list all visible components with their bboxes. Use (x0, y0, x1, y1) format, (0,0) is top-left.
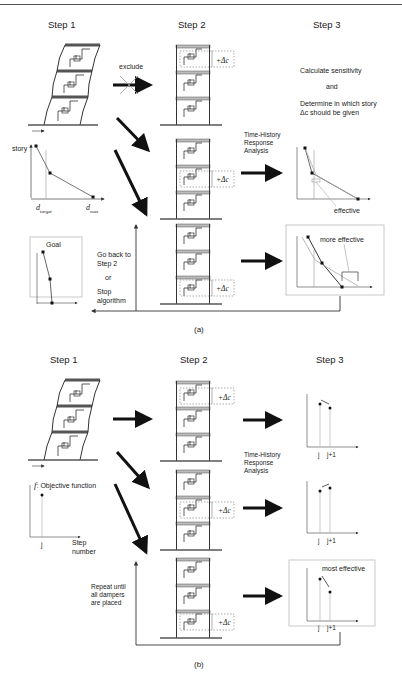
delta-c-label-a2: +Δc (216, 175, 229, 185)
caption-b: (b) (194, 660, 204, 670)
effective-label: effective (334, 206, 360, 216)
analysis-label-b: Time-History Response Analysis (244, 451, 281, 475)
j1-label-g1: j+1 (327, 450, 336, 460)
delta-c-label-b3: +Δc (218, 618, 231, 628)
calc-sensitivity-text: Calculate sensitivity (300, 66, 361, 76)
loop-line-1: Go back to (97, 250, 131, 259)
step1-label-a: Step 1 (48, 20, 75, 30)
step-number-line-1: Step (72, 538, 96, 547)
step2-label-b: Step 2 (180, 355, 207, 365)
loop-line-5: algorithm (97, 296, 131, 305)
analysis-label-a: Time-History Response Analysis (244, 131, 281, 155)
loop-text-a: Go back to Step 2 or Stop algorithm (97, 250, 131, 305)
most-effective-label: most effective (322, 564, 365, 574)
deformed-building-a (28, 45, 100, 131)
loop-line-2: Step 2 (97, 259, 131, 268)
analysis-line-3: Analysis (244, 467, 281, 475)
j-label-g1: j (318, 450, 319, 460)
loop-line-3: or (97, 273, 131, 282)
analysis-line-3: Analysis (244, 147, 281, 155)
loop-line-3: are placed (91, 599, 126, 607)
exclude-label: exclude (119, 62, 143, 72)
analysis-line-2: Response (244, 139, 281, 147)
loop-line-4: Stop (97, 287, 131, 296)
step-number-label: Step number (72, 538, 96, 556)
step2-label-a: Step 2 (178, 20, 205, 30)
d-target-label: dtarget (36, 203, 52, 217)
delta-c-label-a3: +Δc (216, 284, 229, 294)
step1-label-b: Step 1 (50, 355, 77, 365)
step-number-line-2: number (72, 547, 96, 556)
delta-c-label-b1: +Δc (218, 393, 231, 403)
step3-label-a: Step 3 (313, 20, 340, 30)
j-label-g3: j (318, 623, 319, 633)
analysis-line-2: Response (244, 459, 281, 467)
deformed-building-b (28, 380, 100, 466)
j-label-g2: j (318, 536, 319, 546)
j1-label-g2: j+1 (327, 536, 336, 546)
d-max-label: dmax (86, 203, 98, 217)
and-text: and (326, 82, 338, 92)
delta-c-label-b2: +Δc (218, 506, 231, 516)
j1-label-g3: j+1 (327, 623, 336, 633)
step3-label-b: Step 3 (316, 355, 343, 365)
loop-text-b: Repeat until all dampers are placed (91, 583, 126, 607)
caption-a: (a) (194, 325, 204, 335)
j-label-step1: j (41, 540, 43, 550)
analysis-line-1: Time-History (244, 451, 281, 459)
loop-line-2: all dampers (91, 591, 126, 599)
story-axis-label: story (12, 144, 27, 154)
loop-line-1: Repeat until (91, 583, 126, 591)
objective-function-label: f: Objective function (34, 480, 96, 491)
delta-c-label-a1: +Δc (216, 56, 229, 66)
analysis-line-1: Time-History (244, 131, 281, 139)
delta-c-given-text: Δc should be given (300, 108, 359, 118)
more-effective-label: more effective (320, 235, 364, 245)
goal-label: Goal (46, 240, 61, 250)
